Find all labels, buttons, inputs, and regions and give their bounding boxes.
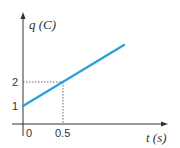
data-line: [23, 45, 124, 106]
y-tick-2: 2: [12, 76, 18, 88]
y-axis-label: q (C): [29, 17, 56, 32]
charge-time-chart: q (C) t (s) 2 1 0 0.5: [0, 0, 180, 148]
x-axis-label: t (s): [146, 130, 167, 145]
y-axis-arrow-icon: [21, 12, 26, 19]
x-tick-0: 0: [26, 127, 32, 139]
x-axis-arrow-icon: [161, 122, 168, 127]
y-tick-1: 1: [12, 100, 18, 112]
x-tick-0-5: 0.5: [55, 127, 70, 139]
